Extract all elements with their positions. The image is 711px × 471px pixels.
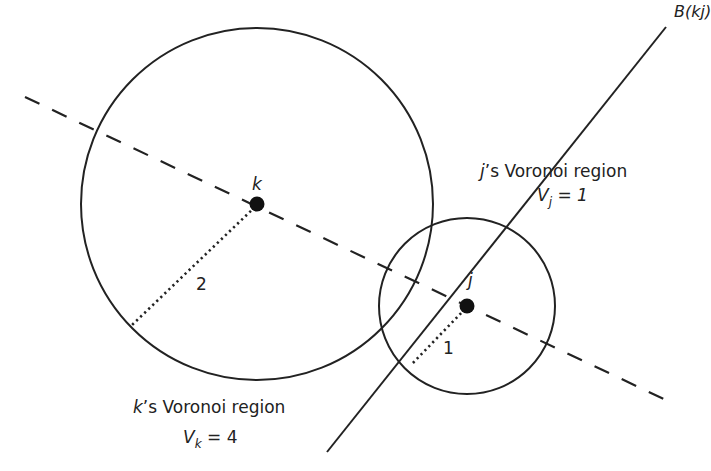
bisector-label: B(kj) xyxy=(674,4,711,20)
region-k-title-text: ’s Voronoi region xyxy=(143,397,285,417)
region-j-volume-var: V xyxy=(537,185,549,205)
region-k-title: k’s Voronoi region xyxy=(133,399,285,416)
site-k-point xyxy=(250,197,265,212)
region-j-volume: Vj = 1 xyxy=(537,187,588,204)
radius-k-label: 2 xyxy=(196,276,207,293)
region-j-title: j’s Voronoi region xyxy=(480,163,627,180)
radius-j-label: 1 xyxy=(443,340,454,357)
region-k-var: k xyxy=(133,397,143,417)
region-j-volume-sub: j xyxy=(549,195,552,209)
site-k-label: k xyxy=(252,176,262,193)
site-j-point xyxy=(460,299,475,314)
region-k-volume: Vk = 4 xyxy=(183,429,237,446)
region-k-volume-var: V xyxy=(183,427,195,447)
region-j-title-text: ’s Voronoi region xyxy=(485,161,627,181)
region-j-volume-value: = 1 xyxy=(552,185,588,205)
region-k-volume-sub: k xyxy=(195,437,202,451)
site-j-label: j xyxy=(468,272,473,289)
region-k-volume-value: = 4 xyxy=(202,427,238,447)
radius-k xyxy=(132,207,255,325)
